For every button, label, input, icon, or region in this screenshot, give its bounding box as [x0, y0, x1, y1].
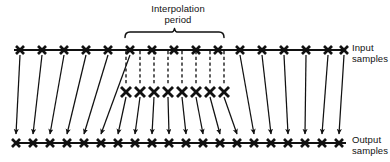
sample-arrow: [16, 55, 20, 134]
interp-arrow: [210, 97, 220, 134]
interpolated-sample-marker: [121, 87, 131, 97]
dashed-connector-group: [126, 51, 224, 85]
trailing-arrow-group: [240, 55, 344, 134]
interp-arrow: [224, 97, 237, 134]
input-samples-label-line2: samples: [352, 53, 388, 64]
interpolation-diagram: Interpolation period Input samples Outpu…: [0, 0, 390, 162]
sample-arrow: [262, 55, 271, 134]
sample-arrow: [339, 55, 344, 134]
interp-arrow: [196, 97, 203, 134]
interpolated-sample-marker: [163, 87, 173, 97]
output-samples-label-line1: Output: [352, 134, 388, 145]
interpolated-sample-marker: [205, 87, 215, 97]
interpolation-period-label-line1: Interpolation: [130, 3, 226, 14]
interpolated-sample-marker-group: [121, 87, 229, 97]
interp-arrow: [182, 97, 186, 134]
interp-arrow: [168, 97, 169, 134]
sample-arrow: [240, 55, 254, 134]
interp-arrow: [152, 97, 154, 134]
input-samples-label-line1: Input: [352, 42, 388, 53]
sample-arrow: [322, 55, 328, 134]
sample-arrow: [33, 55, 42, 134]
sample-arrow: [305, 55, 306, 134]
interp-entry-arrow-group: [118, 97, 237, 134]
output-samples-label: Output samples: [352, 134, 388, 156]
interpolated-sample-marker: [191, 87, 201, 97]
input-to-output-arrow-group: [16, 55, 130, 134]
sample-arrow: [67, 55, 86, 134]
sample-arrow: [101, 55, 130, 134]
interp-arrow: [118, 97, 126, 134]
sample-arrow: [50, 55, 64, 134]
interpolation-period-label-line2: period: [130, 14, 226, 25]
interp-arrow: [135, 97, 140, 134]
interpolated-sample-marker: [135, 87, 145, 97]
interpolation-period-label: Interpolation period: [130, 3, 226, 25]
interpolated-sample-marker: [219, 87, 229, 97]
output-samples-label-line2: samples: [352, 145, 388, 156]
input-samples-label: Input samples: [352, 42, 388, 64]
interpolated-sample-marker: [177, 87, 187, 97]
sample-arrow: [84, 55, 108, 134]
interpolated-sample-marker: [149, 87, 159, 97]
sample-arrow: [284, 55, 288, 134]
interpolation-period-brace: [125, 29, 224, 38]
